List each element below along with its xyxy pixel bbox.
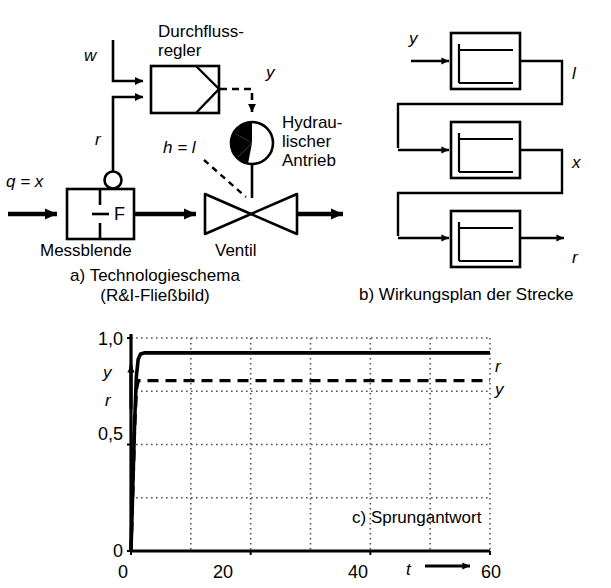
x-axis-tick-0: 0 [118, 562, 128, 582]
series-label-y: y [495, 380, 504, 399]
x-axis-tick-20: 20 [213, 562, 233, 582]
x-axis-tick-40: 40 [348, 562, 368, 582]
series-label-r: r [495, 357, 501, 376]
panel-c-caption: c) Sprungantwort [352, 508, 481, 527]
x-axis-tick-60: 60 [481, 562, 501, 582]
y-axis-arrow-svg [0, 0, 611, 588]
figure-root: w Durchfluss- regler y r h = l q = x F M… [0, 0, 611, 588]
x-axis-label: t [406, 560, 411, 579]
